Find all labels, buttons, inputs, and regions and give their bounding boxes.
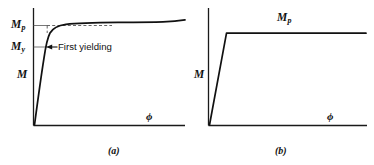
panel-a-label-phi: ϕ [146,111,152,122]
panel-a-annotation-arrowhead [46,45,52,50]
panel-b-label-phi: ϕ [327,111,333,122]
panel-a-caption: (a) [108,146,120,156]
figure-vector-layer [0,0,374,165]
moment-curvature-figure: Mp My M First yielding ϕ (a) M Mp ϕ (b) [0,0,374,165]
panel-b-label-M: M [194,69,204,81]
panel-a-label-M: M [17,69,27,81]
panel-a-annotation-first-yielding: First yielding [58,42,112,52]
panel-b-idealized-curve [210,33,367,125]
panel-b-graphics [209,8,368,126]
panel-a-moment-curvature-curve [35,20,186,125]
panel-a-label-My: My [11,41,25,54]
panel-a-graphics [34,8,186,126]
panel-b-caption: (b) [275,146,287,156]
panel-a-label-Mp: Mp [11,19,25,32]
panel-b-label-Mp: Mp [277,12,291,25]
